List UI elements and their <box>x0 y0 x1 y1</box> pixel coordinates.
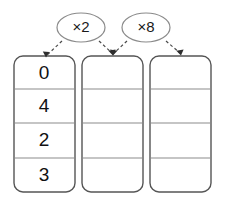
second-product-column-box[interactable] <box>150 56 211 192</box>
cell-input-row-1: 0 <box>39 62 50 83</box>
multiply-by-2-label: ×2 <box>72 18 89 35</box>
column-group-2[interactable] <box>82 56 143 192</box>
cell-input-row-4: 3 <box>39 164 50 185</box>
diagram-canvas: 0 4 2 3 <box>0 0 227 200</box>
column-group-1[interactable]: 0 4 2 3 <box>14 56 75 192</box>
cell-input-row-2: 4 <box>39 95 50 116</box>
arrow-multiply-8-to-first-product <box>110 41 127 56</box>
multiply-by-8-label: ×8 <box>137 18 154 35</box>
first-product-column-box[interactable] <box>82 56 143 192</box>
column-group-3[interactable] <box>150 56 211 192</box>
arrow-multiply-8-to-second-product <box>166 41 184 56</box>
arrow-multiply-2-to-input <box>43 41 62 58</box>
multiply-by-8-bubble[interactable]: ×8 <box>122 13 170 42</box>
cell-input-row-3: 2 <box>39 129 50 150</box>
multiply-by-2-bubble[interactable]: ×2 <box>57 13 105 42</box>
